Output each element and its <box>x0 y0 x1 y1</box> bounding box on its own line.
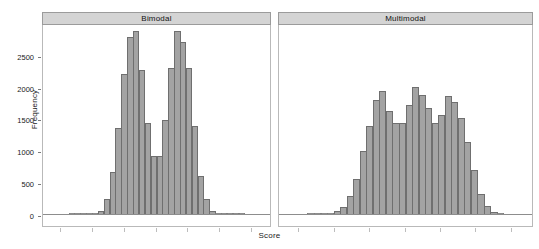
facet-strip-multimodal: Multimodal <box>278 12 533 25</box>
facet-strip-label: Bimodal <box>141 15 171 23</box>
x-axis-tick-mark <box>369 228 370 232</box>
facet-plot-bimodal <box>42 25 271 227</box>
x-axis-tick-mark <box>251 228 252 232</box>
x-axis-tick-mark <box>405 228 406 232</box>
x-axis-tick-mark <box>298 228 299 232</box>
histogram-bars-bimodal <box>43 25 270 226</box>
x-axis-tick-mark <box>475 228 476 232</box>
y-axis-title: Frequency <box>30 50 39 170</box>
histogram-bars-multimodal <box>279 25 532 226</box>
y-axis-tick-mark <box>38 216 41 217</box>
axis-baseline <box>43 214 270 215</box>
x-axis-multimodal <box>278 228 533 236</box>
facet-plot-multimodal <box>278 25 533 227</box>
faceted-histogram-figure: 05001000150020002500 Frequency Score Bim… <box>0 0 539 249</box>
x-axis-tick-mark <box>92 228 93 232</box>
x-axis-tick-mark <box>156 228 157 232</box>
x-axis-tick-mark <box>219 228 220 232</box>
x-axis-tick-mark <box>440 228 441 232</box>
facet-strip-bimodal: Bimodal <box>42 12 271 25</box>
x-axis-tick-mark <box>60 228 61 232</box>
x-axis-tick-mark <box>511 228 512 232</box>
y-axis-tick-mark <box>38 184 41 185</box>
x-axis-tick-mark <box>187 228 188 232</box>
x-axis-tick-mark <box>124 228 125 232</box>
facet-panel-multimodal: Multimodal <box>278 12 533 227</box>
facet-strip-label: Multimodal <box>385 15 426 23</box>
y-axis-tick-label: 500 <box>4 180 34 189</box>
x-axis-bimodal <box>42 228 271 236</box>
x-axis-tick-mark <box>334 228 335 232</box>
axis-baseline <box>279 214 532 215</box>
y-axis-tick-label: 0 <box>4 212 34 221</box>
facet-panel-bimodal: Bimodal <box>42 12 271 227</box>
